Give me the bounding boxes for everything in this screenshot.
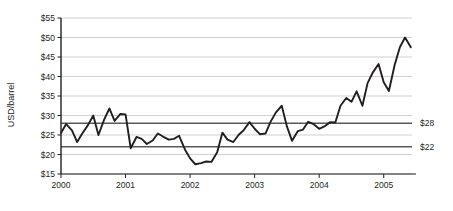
- y-tick-label-20: $20: [41, 150, 55, 160]
- y-tick-label-30: $30: [41, 111, 55, 121]
- y-tick-label-55: $55: [41, 13, 55, 23]
- y-tick-label-50: $50: [41, 33, 55, 43]
- reference-label-22: $22: [420, 142, 434, 152]
- y-axis-title: USD/barrel: [6, 83, 16, 128]
- x-tick-label-2001: 2001: [116, 180, 135, 190]
- y-tick-label-15: $15: [41, 169, 55, 179]
- x-tick-label-2005: 2005: [374, 180, 393, 190]
- y-tick-label-45: $45: [41, 52, 55, 62]
- x-tick-label-2002: 2002: [181, 180, 200, 190]
- x-tick-label-2003: 2003: [245, 180, 264, 190]
- y-axis-ticks-group: $15$20$25$30$35$40$45$50$55: [41, 13, 61, 179]
- x-tick-label-2004: 2004: [310, 180, 329, 190]
- reference-label-28: $28: [420, 118, 434, 128]
- chart-container: $28$22 $15$20$25$30$35$40$45$50$55 20002…: [0, 0, 453, 211]
- y-tick-label-40: $40: [41, 72, 55, 82]
- y-tick-label-35: $35: [41, 91, 55, 101]
- y-tick-label-25: $25: [41, 130, 55, 140]
- oil-price-line-chart: $28$22 $15$20$25$30$35$40$45$50$55 20002…: [0, 0, 453, 211]
- x-tick-label-2000: 2000: [52, 180, 71, 190]
